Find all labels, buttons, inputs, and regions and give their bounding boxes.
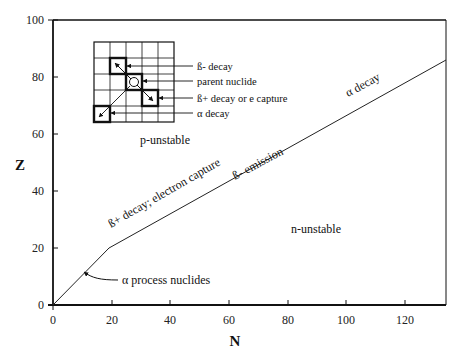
beta-plus-decay-label: ß+ decay; electron capture <box>106 155 223 231</box>
x-tick-label: 80 <box>282 313 294 327</box>
x-tick-label: 60 <box>223 313 235 327</box>
p-unstable-label: p-unstable <box>140 133 190 147</box>
y-tick-label: 0 <box>38 298 44 312</box>
nuclide-chart: 0 20 40 60 80 100 0 20 40 60 80 100 120 … <box>0 0 461 357</box>
inset-nuclide-grid <box>94 42 193 122</box>
inset-legend: ß- decay parent nuclide ß+ decay or e ca… <box>197 61 288 119</box>
legend-parent-nuclide: parent nuclide <box>197 76 257 87</box>
beta-minus-emission-label: ß- emission <box>230 144 286 182</box>
x-tick-label: 100 <box>337 313 355 327</box>
alpha-decay-label: α decay <box>343 70 382 100</box>
y-tick-label: 60 <box>32 127 44 141</box>
x-tick-label: 20 <box>106 313 118 327</box>
x-tick-label: 40 <box>164 313 176 327</box>
legend-beta-plus: ß+ decay or e capture <box>197 93 288 104</box>
y-tick-label: 80 <box>32 70 44 84</box>
y-tick-label: 100 <box>26 13 44 27</box>
alpha-process-arrow <box>84 272 118 280</box>
legend-beta-minus: ß- decay <box>197 61 234 72</box>
alpha-process-label: α process nuclides <box>122 273 211 287</box>
n-unstable-label: n-unstable <box>291 222 341 236</box>
x-axis-title: N <box>230 333 241 349</box>
legend-alpha: α decay <box>197 108 230 119</box>
x-ticks: 0 20 40 60 80 100 120 <box>50 300 414 327</box>
x-tick-label: 120 <box>396 313 414 327</box>
y-tick-label: 40 <box>32 184 44 198</box>
y-tick-label: 20 <box>32 241 44 255</box>
y-axis-title: Z <box>15 157 25 173</box>
x-tick-label: 0 <box>50 313 56 327</box>
